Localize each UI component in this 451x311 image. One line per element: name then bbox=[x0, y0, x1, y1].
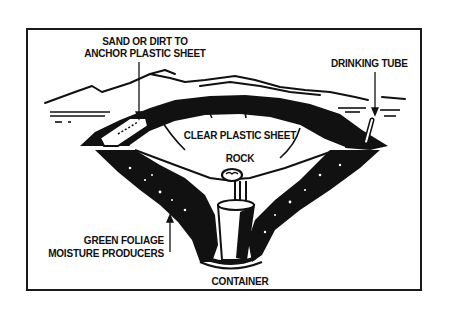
label-anchor-line1: SAND OR DIRT TO bbox=[70, 36, 220, 48]
label-foliage-line2: MOISTURE PRODUCERS bbox=[28, 248, 164, 260]
label-container: CONTAINER bbox=[200, 276, 280, 288]
anchor-sand bbox=[100, 118, 148, 146]
label-foliage-line1: GREEN FOLIAGE bbox=[28, 235, 164, 247]
label-anchor-line2: ANCHOR PLASTIC SHEET bbox=[70, 48, 220, 60]
container bbox=[218, 200, 254, 260]
label-rock: ROCK bbox=[215, 153, 265, 165]
rock bbox=[222, 169, 242, 181]
label-drinking-tube: DRINKING TUBE bbox=[331, 58, 408, 70]
label-clear-plastic-sheet: CLEAR PLASTIC SHEET bbox=[170, 130, 310, 142]
